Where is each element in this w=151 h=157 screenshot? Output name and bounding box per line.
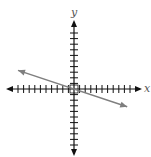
x-axis-arrow-right bbox=[135, 86, 142, 92]
x-axis-label: x bbox=[144, 82, 151, 95]
series-arrow-end bbox=[120, 102, 128, 108]
coordinate-plane: x y bbox=[0, 0, 151, 157]
series-arrow-start bbox=[18, 70, 26, 76]
y-axis-arrow-down bbox=[71, 149, 77, 156]
x-axis-arrow-left bbox=[6, 86, 13, 92]
y-axis-arrow-up bbox=[71, 20, 77, 27]
y-axis-label: y bbox=[70, 6, 78, 19]
